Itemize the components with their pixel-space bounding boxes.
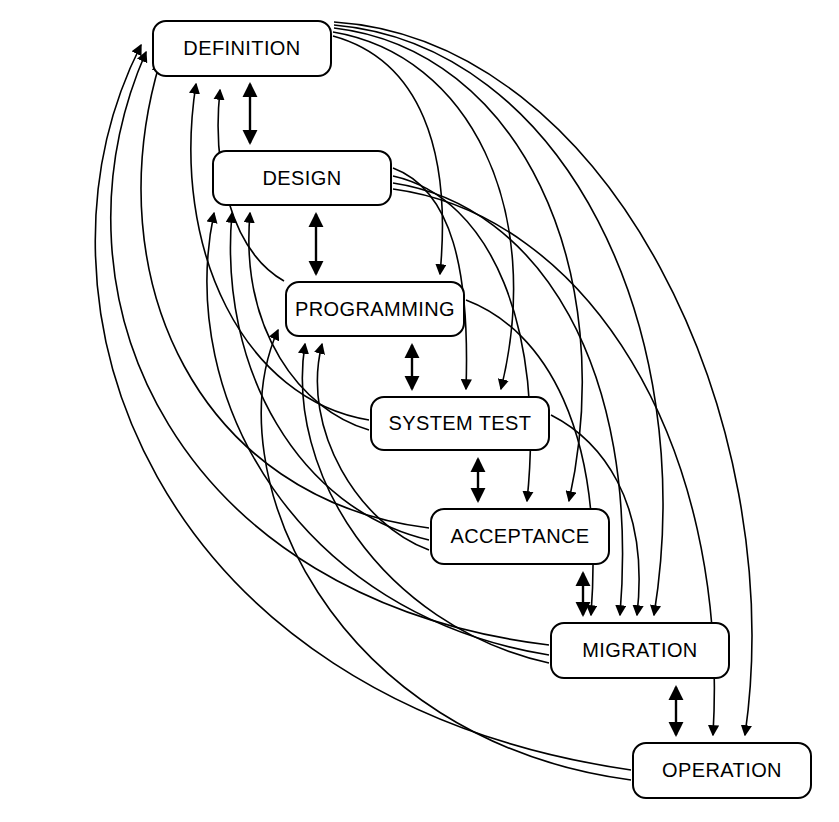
diagram-canvas: DEFINITION DESIGN PROGRAMMING SYSTEM TES… — [0, 0, 839, 822]
node-label-acceptance: ACCEPTANCE — [450, 525, 589, 548]
node-label-migration: MIGRATION — [582, 639, 697, 662]
node-migration[interactable]: MIGRATION — [550, 622, 730, 679]
node-label-programming: PROGRAMMING — [295, 298, 455, 321]
node-definition[interactable]: DEFINITION — [152, 20, 332, 77]
arrow-design-systemtest — [393, 168, 467, 389]
node-system-test[interactable]: SYSTEM TEST — [370, 396, 550, 451]
node-label-system-test: SYSTEM TEST — [389, 412, 532, 435]
node-acceptance[interactable]: ACCEPTANCE — [430, 508, 610, 565]
node-operation[interactable]: OPERATION — [632, 742, 812, 799]
node-design[interactable]: DESIGN — [212, 150, 392, 206]
node-label-operation: OPERATION — [662, 759, 782, 782]
node-programming[interactable]: PROGRAMMING — [285, 281, 465, 337]
arrow-migration-programming — [302, 344, 549, 663]
node-label-definition: DEFINITION — [183, 37, 300, 60]
node-label-design: DESIGN — [262, 167, 341, 190]
